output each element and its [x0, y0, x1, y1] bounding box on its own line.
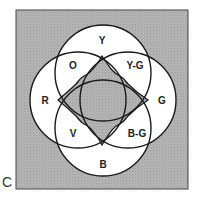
label-bottom-right: B-G — [128, 128, 147, 139]
label-bottom: B — [99, 159, 106, 170]
label-left: R — [41, 95, 49, 106]
label-top-left: O — [69, 60, 77, 71]
label-top: Y — [99, 35, 106, 46]
label-right: G — [158, 95, 166, 106]
panel-label: C — [2, 174, 12, 190]
color-venn-diagram: Y O Y-G R G V B-G B C — [0, 0, 197, 203]
label-top-right: Y-G — [126, 60, 143, 71]
label-bottom-left: V — [70, 128, 77, 139]
